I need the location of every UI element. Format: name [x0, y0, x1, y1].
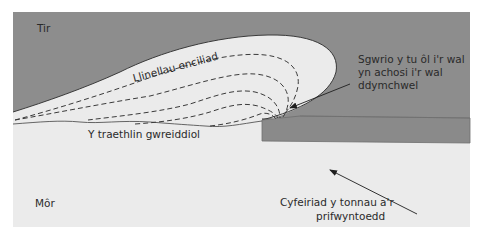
label-scour-line1: Sgwrio y tu ôl i'r wal — [358, 53, 465, 65]
coastal-erosion-diagram: Tir Môr Llinellau enciliad Y traethlin g… — [0, 0, 480, 239]
label-scour-line2: yn achosi i'r wal — [358, 66, 443, 78]
label-original-coastline: Y traethlin gwreiddiol — [87, 128, 200, 140]
label-scour-line3: ddymchwel — [358, 79, 418, 91]
label-wave-direction-line2: prifwyntoedd — [316, 210, 385, 222]
label-sea: Môr — [35, 197, 55, 209]
label-land: Tir — [36, 22, 51, 34]
label-wave-direction-line1: Cyfeiriad y tonnau a'r — [280, 196, 394, 208]
sea-wall — [262, 116, 470, 143]
